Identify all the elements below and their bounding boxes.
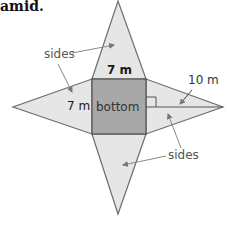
label-sides-top: sides <box>44 47 75 61</box>
label-slant-height: 10 m <box>188 73 219 87</box>
pyramid-net-diagram <box>0 0 228 229</box>
label-top-edge: 7 m <box>107 63 132 77</box>
arrow-sides-top-2 <box>58 64 72 92</box>
side-face-bottom <box>92 134 146 214</box>
label-bottom: bottom <box>96 100 139 114</box>
label-left-edge: 7 m <box>67 99 90 113</box>
label-sides-bottom: sides <box>168 148 199 162</box>
